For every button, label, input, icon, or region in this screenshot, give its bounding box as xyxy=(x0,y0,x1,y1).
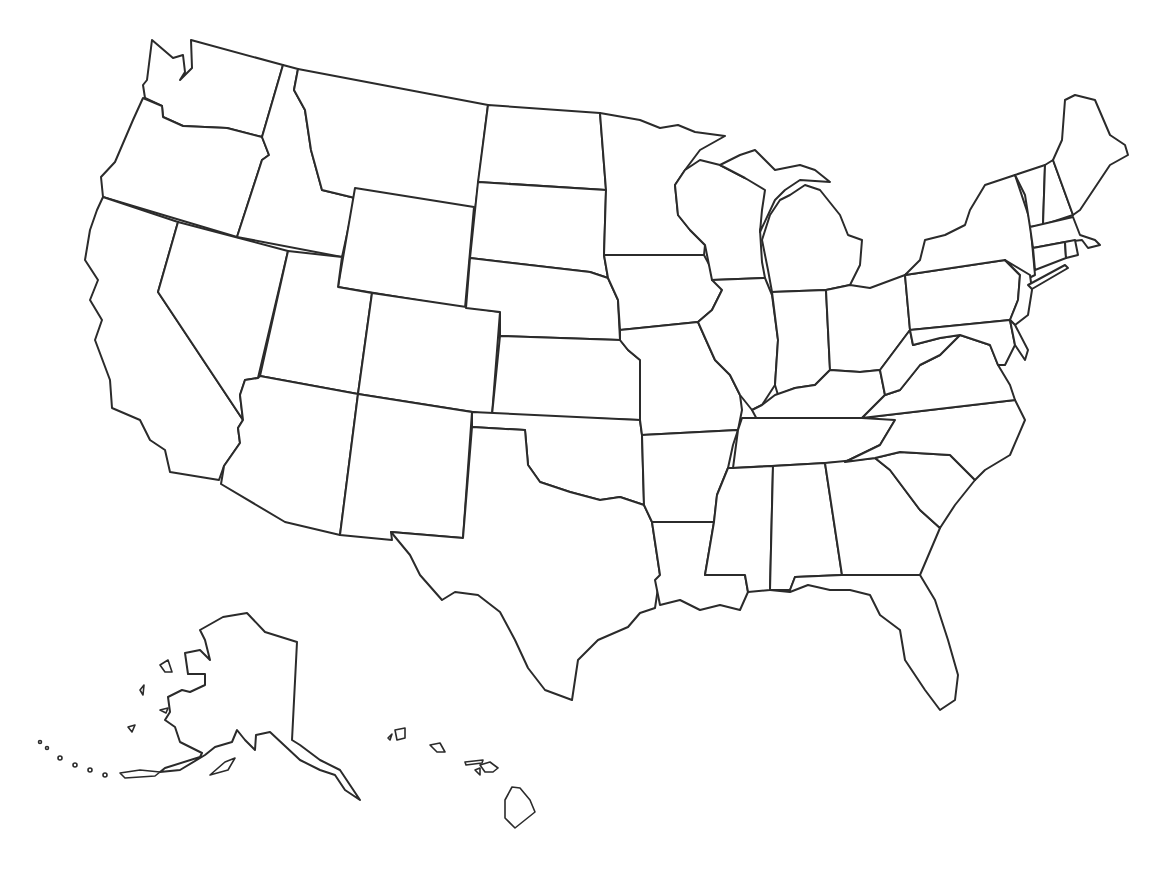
island xyxy=(88,768,92,772)
kauai[interactable] xyxy=(395,728,405,740)
us-outline-map xyxy=(0,0,1170,876)
island xyxy=(46,747,49,750)
hawaii-big-island[interactable] xyxy=(505,787,535,828)
state-florida[interactable] xyxy=(770,575,958,710)
state-arizona[interactable] xyxy=(221,376,358,535)
state-north-dakota[interactable] xyxy=(478,105,606,190)
aleutian-islands xyxy=(120,770,160,778)
island xyxy=(73,763,77,767)
hawaii-inset xyxy=(388,728,535,828)
state-connecticut[interactable] xyxy=(1033,242,1066,270)
island xyxy=(210,758,235,775)
island xyxy=(140,685,144,695)
island xyxy=(128,725,135,732)
island xyxy=(160,708,168,713)
island xyxy=(39,741,42,744)
alaska-inset xyxy=(39,613,361,800)
contiguous-states xyxy=(85,40,1128,710)
lanai xyxy=(475,768,480,775)
island xyxy=(103,773,107,777)
state-new-york[interactable] xyxy=(905,175,1035,280)
island xyxy=(58,756,62,760)
state-alaska[interactable] xyxy=(160,613,360,800)
state-kansas[interactable] xyxy=(492,336,640,420)
oahu[interactable] xyxy=(430,743,445,752)
state-rhode-island[interactable] xyxy=(1065,240,1078,258)
state-new-mexico[interactable] xyxy=(340,394,472,540)
niihau xyxy=(388,734,392,740)
maui[interactable] xyxy=(480,762,498,772)
state-michigan[interactable] xyxy=(762,185,862,292)
island xyxy=(160,660,172,672)
